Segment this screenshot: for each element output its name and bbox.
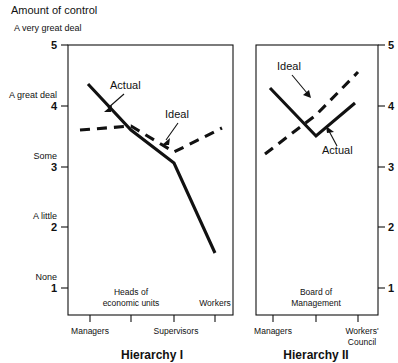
y-anchor-a-great-deal: A great deal: [9, 90, 57, 100]
left-xcat-3: Supervisors: [154, 326, 199, 336]
right-ytick-label-4: 4: [388, 100, 395, 112]
right-series-actual-line: [270, 88, 355, 136]
left-xcat-2-line2: economic units: [103, 298, 160, 308]
left-ideal-leader: [166, 123, 178, 140]
panel-right-frame: [256, 45, 378, 315]
left-ytick-label-5: 5: [51, 39, 57, 51]
left-xcat-2-line1: Heads of: [114, 287, 149, 297]
y-anchor-some: Some: [33, 151, 57, 161]
left-actual-leader: [108, 94, 124, 108]
y-anchor-a-little: A little: [33, 211, 57, 221]
left-xcat-1: Managers: [71, 326, 109, 336]
right-xcat-2-line1: Board of: [300, 287, 333, 297]
chart-svg: Amount of control A very great deal 5 4 …: [0, 0, 398, 363]
right-xcat-2-line2: Management: [291, 298, 341, 308]
y-axis-top-anchor-label: A very great deal: [14, 23, 82, 33]
right-xcat-3-line1: Workers': [345, 326, 378, 336]
left-ytick-label-4: 4: [51, 100, 58, 112]
caption-hierarchy-1: Hierarchy I: [121, 348, 183, 362]
right-series-ideal-label: Ideal: [277, 60, 301, 72]
panel-left-frame: [68, 45, 233, 315]
right-xcat-1: Managers: [254, 326, 292, 336]
chart-title: Amount of control: [11, 4, 97, 16]
left-xcat-4: Workers: [199, 298, 231, 308]
left-series-actual-label: Actual: [110, 79, 141, 91]
caption-hierarchy-2: Hierarchy II: [283, 348, 348, 362]
right-ytick-label-1: 1: [388, 282, 394, 294]
left-ytick-label-3: 3: [51, 161, 57, 173]
right-actual-arrowhead: [326, 126, 334, 133]
right-ytick-label-2: 2: [388, 221, 394, 233]
y-anchor-none: None: [35, 272, 57, 282]
left-ytick-label-1: 1: [51, 282, 57, 294]
left-ytick-label-2: 2: [51, 221, 57, 233]
left-series-ideal-label: Ideal: [165, 108, 189, 120]
right-xcat-3-line2: Council: [348, 337, 376, 347]
right-ideal-leader: [292, 75, 307, 93]
chart-figure: Amount of control A very great deal 5 4 …: [0, 0, 398, 363]
right-ytick-label-3: 3: [388, 161, 394, 173]
left-series-ideal-line: [80, 126, 222, 152]
right-ytick-label-5: 5: [388, 39, 394, 51]
right-ideal-arrowhead: [303, 90, 311, 98]
